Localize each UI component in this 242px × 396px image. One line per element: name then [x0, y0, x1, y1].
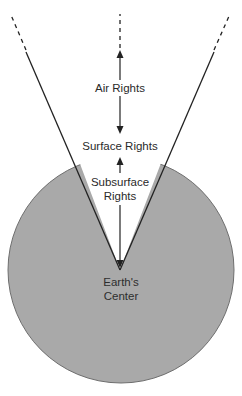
wedge-right-dashed-extension [214, 14, 230, 50]
property-rights-diagram: Air Rights Surface Rights Subsurface Rig… [0, 0, 242, 396]
subsurface-up-arrow [117, 157, 124, 173]
surface-rights-label: Surface Rights [82, 140, 158, 152]
air-rights-label: Air Rights [95, 82, 145, 94]
air-rights-up-arrow [117, 50, 124, 80]
wedge-left-dashed-extension [11, 15, 26, 50]
subsurface-rights-label-line2: Rights [104, 190, 137, 202]
earths-center-label-line1: Earth's [103, 276, 139, 288]
earths-center-label-line2: Center [104, 290, 139, 302]
air-rights-down-arrow [117, 96, 124, 134]
subsurface-rights-label-line1: Subsurface [91, 176, 149, 188]
subsurface-down-arrow [117, 205, 124, 268]
